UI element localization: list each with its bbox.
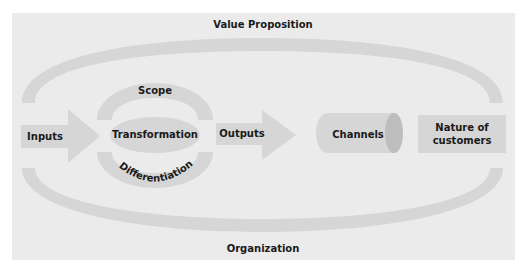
channels-cap [385,113,403,153]
nature-of-customers-label-line2: customers [433,135,492,146]
outputs-label: Outputs [219,128,264,139]
value-proposition-label: Value Proposition [213,19,313,30]
organization-label: Organization [227,243,300,254]
nature-of-customers-node [418,115,506,153]
business-model-diagram: Value Proposition Organization Scope Dif… [0,0,527,270]
transformation-label: Transformation [112,129,198,140]
scope-label: Scope [138,85,172,96]
inputs-label: Inputs [27,131,63,142]
nature-of-customers-label-line1: Nature of [435,122,489,133]
channels-label: Channels [332,129,384,140]
